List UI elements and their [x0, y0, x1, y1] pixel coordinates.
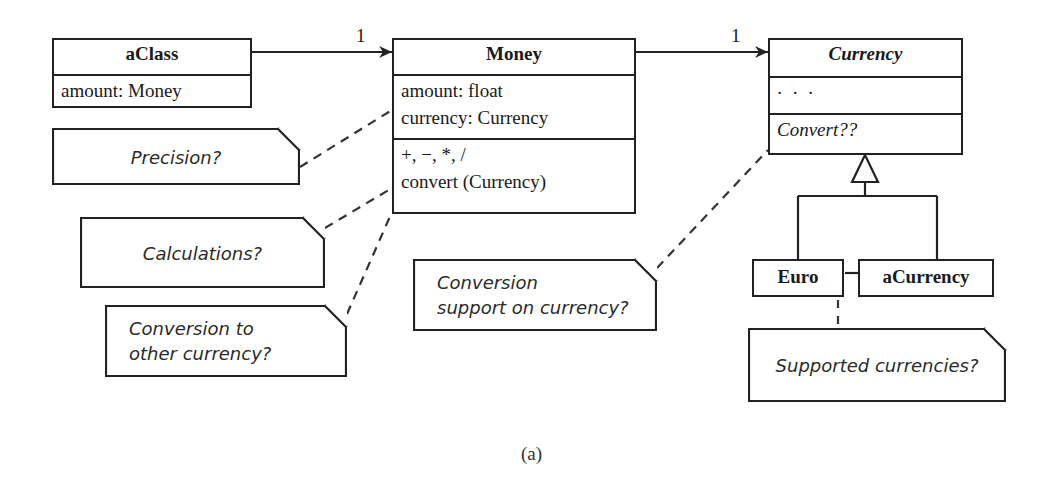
note-conversion-to-other-line-1: other currency?	[129, 341, 333, 366]
aclass-name-compartment: aClass	[54, 40, 250, 74]
multiplicity-money-currency: 1	[731, 26, 741, 45]
currency-attributes-compartment: · · ·	[770, 76, 961, 113]
class-box-currency[interactable]: Currency · · · Convert??	[768, 38, 963, 155]
euro-name-compartment: Euro	[754, 261, 842, 295]
money-operation-0: +, −, *, /	[401, 141, 627, 168]
note-conversion-to-other[interactable]: Conversion to other currency?	[105, 305, 347, 377]
note-link-precision	[300, 110, 392, 167]
money-attribute-1: currency: Currency	[401, 104, 627, 131]
note-link-conversion-support	[657, 150, 768, 268]
currency-operations-compartment: Convert??	[770, 113, 961, 153]
note-calculations-text: Calculations?	[80, 240, 325, 265]
class-box-acurrency[interactable]: aCurrency	[858, 259, 994, 297]
acurrency-name-compartment: aCurrency	[860, 261, 992, 295]
currency-operation-0: Convert??	[777, 116, 954, 143]
money-name-compartment: Money	[394, 40, 634, 74]
currency-name: Currency	[777, 41, 954, 67]
uml-class-diagram: aClass amount: Money Money amount: float…	[0, 0, 1063, 485]
note-supported-currencies[interactable]: Supported currencies?	[748, 328, 1006, 402]
multiplicity-aclass-money: 1	[356, 26, 366, 45]
figure-caption: (a)	[0, 443, 1063, 465]
class-box-money[interactable]: Money amount: float currency: Currency +…	[392, 38, 636, 214]
note-conversion-support[interactable]: Conversion support on currency?	[413, 259, 657, 331]
note-conversion-to-other-text: Conversion to other currency?	[105, 316, 347, 366]
money-attributes-compartment: amount: float currency: Currency	[394, 74, 634, 138]
money-name: Money	[401, 41, 627, 67]
aclass-name: aClass	[61, 41, 243, 67]
money-operations-compartment: +, −, *, / convert (Currency)	[394, 138, 634, 212]
money-attribute-0: amount: float	[401, 77, 627, 104]
euro-name: Euro	[761, 262, 835, 292]
generalization-triangle	[852, 155, 878, 182]
currency-attribute-0: · · ·	[777, 79, 954, 106]
note-precision[interactable]: Precision?	[52, 128, 300, 185]
note-calculations[interactable]: Calculations?	[80, 217, 325, 288]
note-conversion-support-line-0: Conversion	[437, 270, 643, 295]
currency-name-compartment: Currency	[770, 40, 961, 76]
aclass-attributes-compartment: amount: Money	[54, 74, 250, 110]
note-conversion-support-line-1: support on currency?	[437, 295, 643, 320]
acurrency-name: aCurrency	[867, 262, 985, 292]
note-supported-currencies-text: Supported currencies?	[748, 353, 1006, 378]
class-box-aclass[interactable]: aClass amount: Money	[52, 38, 252, 108]
class-box-euro[interactable]: Euro	[752, 259, 844, 297]
note-link-conversion-to-other	[347, 212, 392, 314]
note-precision-text: Precision?	[52, 144, 300, 169]
aclass-attribute-0: amount: Money	[61, 77, 243, 104]
note-conversion-support-text: Conversion support on currency?	[413, 270, 657, 320]
note-conversion-to-other-line-0: Conversion to	[129, 316, 333, 341]
note-link-calculations	[325, 188, 392, 228]
money-operation-1: convert (Currency)	[401, 168, 627, 195]
